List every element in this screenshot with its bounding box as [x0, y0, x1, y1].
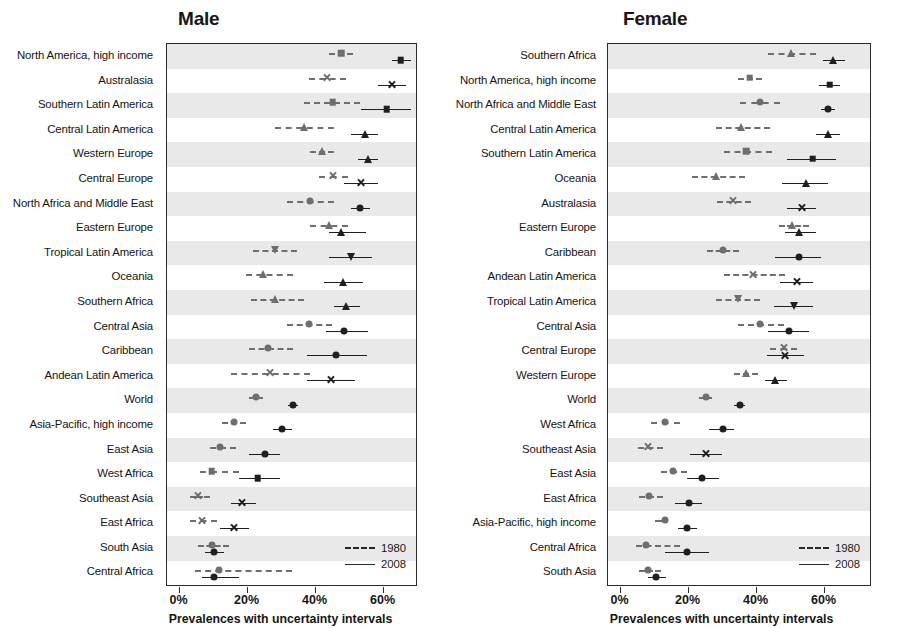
data-row: [167, 339, 416, 364]
point-marker-1980: [305, 320, 312, 327]
legend-label: 1980: [835, 542, 860, 554]
point-marker-1980: [749, 270, 758, 279]
legend-label: 2008: [381, 558, 406, 570]
data-row: [167, 438, 416, 463]
point-marker-2008: [397, 57, 404, 64]
data-row: [608, 462, 870, 487]
point-marker-2008: [809, 155, 816, 162]
row-label: North America, high income: [443, 68, 603, 93]
point-marker-2008: [826, 81, 833, 88]
row-label: Caribbean: [0, 338, 160, 363]
x-axis-title-female: Prevalences with uncertainty intervals: [610, 612, 834, 626]
point-marker-1980: [197, 516, 206, 525]
row-label: Andean Latin America: [443, 264, 603, 289]
row-label: North Africa and Middle East: [0, 191, 160, 216]
row-label: Tropical Latin America: [443, 289, 603, 314]
row-label: Oceania: [443, 166, 603, 191]
row-label: Central Europe: [443, 338, 603, 363]
row-label: East Asia: [0, 437, 160, 462]
point-marker-2008: [290, 401, 297, 408]
data-row: [167, 69, 416, 94]
row-label: North Africa and Middle East: [443, 92, 603, 117]
point-marker-1980: [300, 123, 308, 131]
point-marker-1980: [323, 73, 332, 82]
data-row: [167, 413, 416, 438]
point-marker-1980: [670, 468, 677, 475]
point-marker-1980: [215, 566, 222, 573]
point-marker-2008: [339, 278, 347, 286]
point-marker-2008: [699, 475, 706, 482]
point-marker-2008: [238, 498, 247, 507]
legend-swatch-dashed: [345, 547, 375, 549]
point-marker-2008: [332, 352, 339, 359]
point-marker-2008: [701, 449, 710, 458]
data-row: [608, 388, 870, 413]
row-label: Central Latin America: [0, 117, 160, 142]
point-marker-2008: [719, 426, 726, 433]
panel-female: Female Southern AfricaNorth America, hig…: [448, 0, 896, 628]
legend-swatch-solid: [345, 564, 375, 565]
legend-item-1980: 1980: [799, 540, 860, 556]
data-row: [167, 364, 416, 389]
point-marker-1980: [756, 99, 763, 106]
row-label: Asia-Pacific, high income: [0, 412, 160, 437]
data-row: [608, 413, 870, 438]
axis-tick-label: 20%: [675, 593, 700, 607]
data-row: [608, 339, 870, 364]
point-marker-2008: [793, 277, 802, 286]
data-row: [167, 290, 416, 315]
data-row: [608, 511, 870, 536]
row-label: South Asia: [0, 535, 160, 560]
point-marker-2008: [337, 228, 345, 236]
point-marker-1980: [328, 172, 337, 181]
axis-tick-label: 40%: [743, 593, 768, 607]
row-label: Caribbean: [443, 240, 603, 265]
row-label: Central Africa: [443, 535, 603, 560]
row-label: East Asia: [443, 461, 603, 486]
point-marker-1980: [742, 369, 750, 377]
point-marker-2008: [210, 549, 217, 556]
uncertainty-interval-1980: [195, 570, 292, 572]
point-marker-1980: [230, 419, 237, 426]
data-row: [167, 167, 416, 192]
row-label: North America, high income: [0, 43, 160, 68]
row-label: Southern Africa: [0, 289, 160, 314]
data-row: [167, 315, 416, 340]
point-marker-2008: [829, 56, 837, 64]
point-marker-1980: [325, 221, 333, 229]
row-label: Andean Latin America: [0, 363, 160, 388]
point-marker-1980: [208, 542, 215, 549]
point-marker-1980: [728, 196, 737, 205]
row-label: East Africa: [443, 486, 603, 511]
data-row: [167, 487, 416, 512]
data-row: [608, 69, 870, 94]
row-label: Oceania: [0, 264, 160, 289]
uncertainty-interval-2008: [202, 577, 239, 578]
point-marker-1980: [271, 246, 279, 254]
point-marker-2008: [384, 106, 391, 113]
point-marker-2008: [736, 401, 743, 408]
row-label: Central Europe: [0, 166, 160, 191]
point-marker-1980: [646, 492, 653, 499]
legend-swatch-dashed: [799, 547, 829, 549]
point-marker-2008: [785, 327, 792, 334]
row-label: Southern Africa: [443, 43, 603, 68]
row-label: Eastern Europe: [443, 215, 603, 240]
row-label: World: [0, 387, 160, 412]
row-label: Central Asia: [443, 314, 603, 339]
legend-item-1980: 1980: [345, 540, 406, 556]
row-label: West Africa: [0, 461, 160, 486]
point-marker-1980: [746, 74, 753, 81]
data-row: [167, 462, 416, 487]
point-marker-1980: [644, 566, 651, 573]
point-marker-2008: [795, 228, 803, 236]
row-label: Tropical Latin America: [0, 240, 160, 265]
axis-tick-label: 20%: [234, 593, 259, 607]
point-marker-1980: [743, 148, 750, 155]
legend-item-2008: 2008: [799, 556, 860, 572]
legend-label: 1980: [381, 542, 406, 554]
data-row: [608, 192, 870, 217]
x-axis-title-male: Prevalences with uncertainty intervals: [169, 612, 393, 626]
point-marker-1980: [737, 123, 745, 131]
row-label: East Africa: [0, 510, 160, 535]
